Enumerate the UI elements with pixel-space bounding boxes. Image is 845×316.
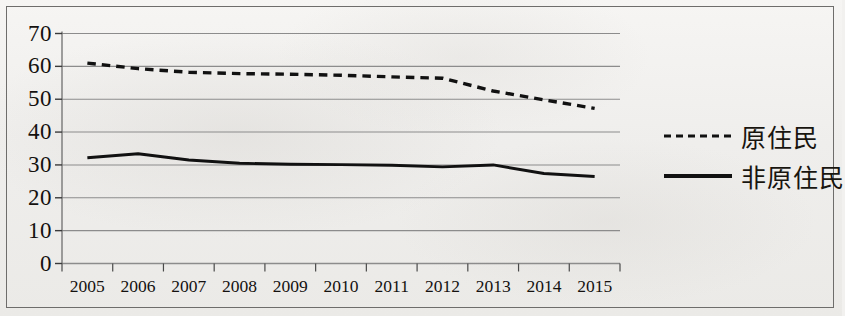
x-axis-label-2006: 2006 [109, 278, 167, 296]
x-axis-label-2010: 2010 [312, 278, 370, 296]
x-axis-tick-marks [62, 264, 620, 272]
x-axis-label-2008: 2008 [211, 278, 269, 296]
legend-item-non-indigenous: 非原住民 [663, 156, 838, 196]
y-axis-label-60: 60 [8, 54, 52, 77]
legend-item-indigenous: 原住民 [663, 116, 838, 156]
axes-group [55, 32, 62, 264]
x-axis-label-2007: 2007 [160, 278, 218, 296]
series-line-0 [87, 63, 594, 108]
y-axis-label-0: 0 [8, 252, 52, 275]
x-axis-label-2012: 2012 [413, 278, 471, 296]
y-axis-label-10: 10 [8, 219, 52, 242]
x-axis-label-2014: 2014 [515, 278, 573, 296]
legend-dashed-line-swatch [663, 129, 733, 143]
chart-legend: 原住民 非原住民 [663, 116, 838, 196]
legend-label-indigenous: 原住民 [741, 118, 819, 154]
x-axis-label-2005: 2005 [58, 278, 116, 296]
x-axis-label-2015: 2015 [566, 278, 624, 296]
data-series-group [87, 63, 594, 176]
legend-label-non-indigenous: 非原住民 [741, 158, 845, 194]
y-axis-label-50: 50 [8, 87, 52, 110]
x-axis-label-2013: 2013 [464, 278, 522, 296]
x-axis-label-2009: 2009 [261, 278, 319, 296]
legend-solid-line-swatch [663, 169, 733, 183]
x-axis-label-2011: 2011 [363, 278, 421, 296]
y-axis-label-40: 40 [8, 120, 52, 143]
y-axis-label-70: 70 [8, 22, 52, 45]
y-axis-label-30: 30 [8, 153, 52, 176]
y-axis-label-20: 20 [8, 186, 52, 209]
